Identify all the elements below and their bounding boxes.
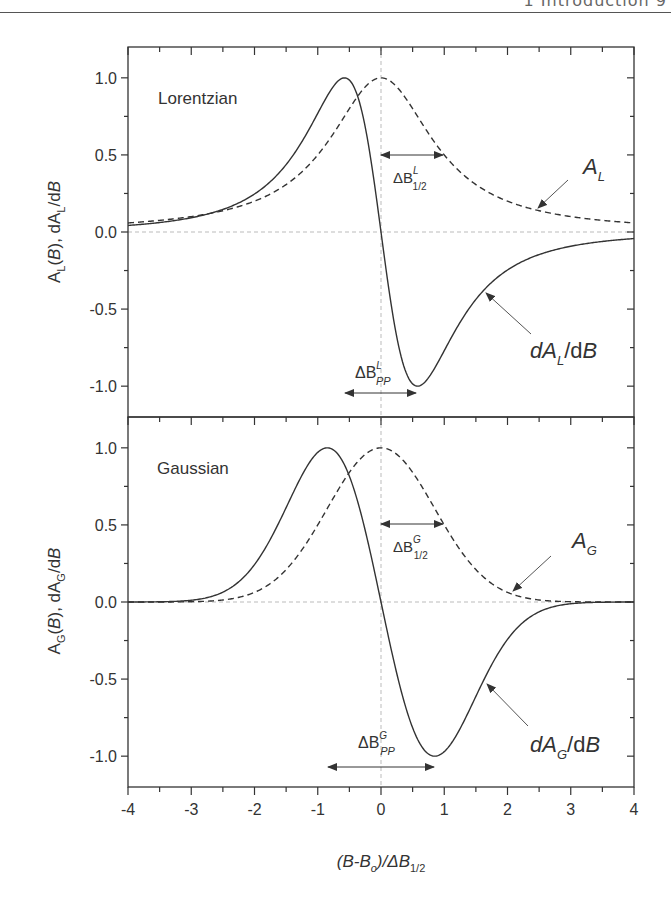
da-g-db-label: dAG/dB bbox=[530, 732, 600, 762]
y-tick-label: 0.5 bbox=[95, 517, 117, 534]
da-l-db-label: dAL/dB bbox=[530, 338, 597, 368]
top-peak-to-peak-annotation: ΔBLPP bbox=[345, 360, 416, 393]
y-tick-label: 1.0 bbox=[95, 440, 117, 457]
x-tick-label: -1 bbox=[311, 801, 325, 818]
gaussian-title: Gaussian bbox=[157, 459, 229, 478]
lorentzian-title: Lorentzian bbox=[158, 89, 237, 108]
delta-b-half-l-label: ΔBL1/2 bbox=[393, 165, 427, 192]
y-tick-label: -1.0 bbox=[89, 378, 117, 395]
x-tick-label: -4 bbox=[121, 801, 135, 818]
x-axis-label: (B-Bo)/ΔB1/2 bbox=[337, 852, 426, 874]
bottom-half-width-annotation: ΔBG1/2 bbox=[381, 524, 443, 561]
x-tick-label: -2 bbox=[247, 801, 261, 818]
x-tick-label: 3 bbox=[566, 801, 575, 818]
delta-b-pp-l-label: ΔBLPP bbox=[355, 360, 391, 387]
delta-b-half-g-label: ΔBG1/2 bbox=[393, 534, 428, 561]
x-tick-label: 4 bbox=[630, 801, 639, 818]
y-tick-label: -0.5 bbox=[89, 671, 117, 688]
x-tick-label: 0 bbox=[377, 801, 386, 818]
a-g-callout: AG bbox=[513, 528, 597, 591]
x-tick-label: 1 bbox=[440, 801, 449, 818]
x-tick-label: -3 bbox=[184, 801, 198, 818]
y-tick-label: -1.0 bbox=[89, 748, 117, 765]
delta-b-pp-g-label: ΔBGPP bbox=[358, 730, 395, 757]
x-tick-label: 2 bbox=[503, 801, 512, 818]
figure: -1.0-0.50.00.51.0 -1.0-0.50.00.51.0-4-3-… bbox=[0, 0, 671, 903]
y-tick-label: 1.0 bbox=[95, 70, 117, 87]
a-g-label: AG bbox=[570, 528, 597, 558]
top-y-axis-label: AL(B), dAL/dB bbox=[45, 181, 67, 283]
top-half-width-annotation: ΔBL1/2 bbox=[381, 155, 443, 192]
y-tick-label: -0.5 bbox=[89, 301, 117, 318]
da-l-callout: dAL/dB bbox=[486, 293, 597, 368]
da-g-callout: dAG/dB bbox=[487, 684, 600, 762]
a-l-label: AL bbox=[581, 154, 605, 184]
a-l-callout: AL bbox=[538, 154, 605, 208]
y-tick-label: 0.0 bbox=[95, 594, 117, 611]
bottom-y-axis-label: AG(B), dAG/dB bbox=[45, 548, 67, 655]
y-tick-label: 0.5 bbox=[95, 147, 117, 164]
y-tick-label: 0.0 bbox=[95, 224, 117, 241]
